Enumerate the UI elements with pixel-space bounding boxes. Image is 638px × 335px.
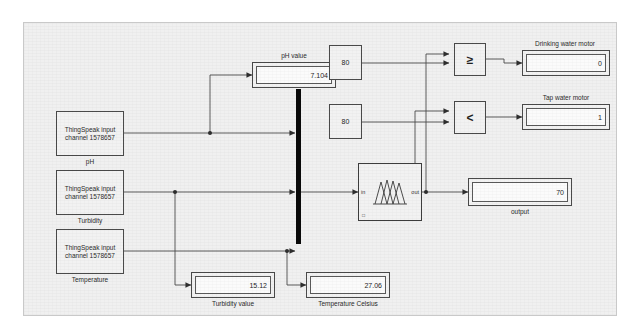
membership-function-icon (359, 164, 423, 222)
temperature-celsius-display[interactable]: 27.06 (306, 272, 390, 298)
tap-water-motor-caption: Tap water motor (520, 94, 612, 101)
relop-greater-equal-block[interactable]: ≥ (454, 43, 486, 76)
temperature-source-text: ThingSpeak input channel 1578657 (65, 244, 116, 260)
ph-value-caption: pH value (252, 52, 336, 59)
temperature-source-block[interactable]: ThingSpeak input channel 1578657 (56, 229, 124, 274)
output-caption: output (468, 208, 572, 215)
temperature-celsius-readout: 27.06 (310, 276, 386, 294)
temperature-source-line1: ThingSpeak input (65, 244, 116, 251)
mux-bar[interactable] (296, 89, 301, 244)
turbidity-value-caption: Turbidity value (184, 300, 282, 307)
turbidity-source-line1: ThingSpeak input (65, 185, 116, 192)
drinking-water-motor-display[interactable]: 0 (522, 50, 610, 76)
simulink-canvas: ThingSpeak input channel 1578657 pH Thin… (23, 22, 617, 316)
fuzzy-logic-controller-block[interactable]: in out □ (358, 163, 422, 221)
relop-less-than-block[interactable]: < (454, 101, 486, 134)
output-display[interactable]: 70 (468, 178, 572, 206)
ph-source-text: ThingSpeak input channel 1578657 (65, 126, 116, 142)
turbidity-value-display[interactable]: 15.12 (191, 272, 275, 298)
turbidity-value-readout: 15.12 (195, 276, 271, 294)
constant-lower-block[interactable]: 80 (329, 104, 362, 139)
turbidity-source-caption: Turbidity (56, 217, 124, 224)
ph-source-caption: pH (56, 158, 124, 165)
ph-source-line2: channel 1578657 (65, 134, 115, 141)
constant-upper-block[interactable]: 80 (329, 45, 362, 80)
ph-value-readout: 7.104 (256, 66, 332, 84)
tap-water-motor-readout: 1 (526, 108, 606, 126)
temperature-source-caption: Temperature (56, 276, 124, 283)
turbidity-source-block[interactable]: ThingSpeak input channel 1578657 (56, 170, 124, 215)
ph-value-display[interactable]: 7.104 (252, 62, 336, 88)
output-readout: 70 (472, 182, 568, 202)
turbidity-source-line2: channel 1578657 (65, 193, 115, 200)
drinking-water-motor-readout: 0 (526, 54, 606, 72)
ph-source-block[interactable]: ThingSpeak input channel 1578657 (56, 111, 124, 156)
drinking-water-motor-caption: Drinking water motor (516, 40, 614, 47)
temperature-celsius-caption: Temperature Celsius (296, 300, 400, 307)
turbidity-source-text: ThingSpeak input channel 1578657 (65, 185, 116, 201)
ph-source-line1: ThingSpeak input (65, 126, 116, 133)
tap-water-motor-display[interactable]: 1 (522, 104, 610, 130)
temperature-source-line2: channel 1578657 (65, 252, 115, 259)
